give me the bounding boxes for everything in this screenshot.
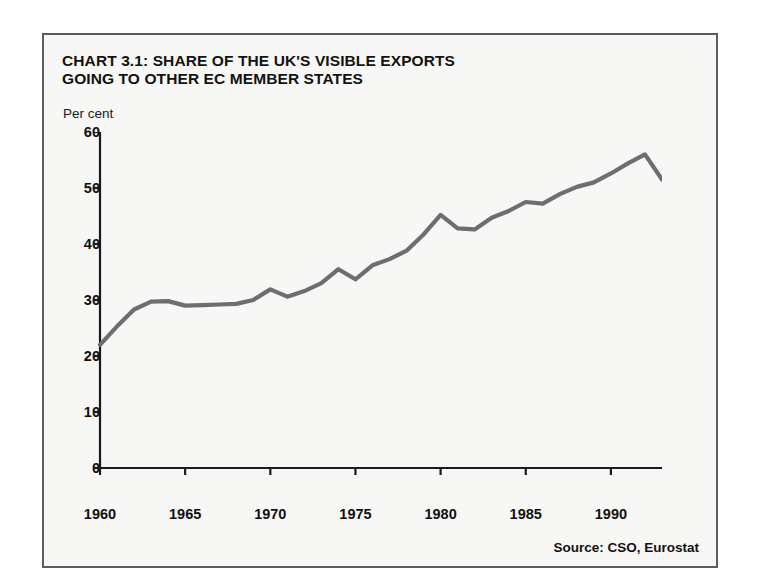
x-axis-tick-labels: 1960196519701975198019851990 [100,506,662,530]
chart-title-line-1: CHART 3.1: SHARE OF THE UK'S VISIBLE EXP… [62,52,622,70]
x-axis-tick-label: 1965 [169,506,201,522]
x-axis-tick-label: 1975 [339,506,371,522]
y-axis-unit-label: Per cent [63,106,113,121]
x-axis-tick-label: 1985 [510,506,542,522]
x-axis-tick-label: 1980 [424,506,456,522]
source-note: Source: CSO, Eurostat [553,540,699,555]
axis-lines [100,132,662,468]
chart-svg [62,132,662,504]
chart-title-line-2: GOING TO OTHER EC MEMBER STATES [62,70,622,88]
data-series-line [100,154,662,344]
x-axis-tick-label: 1960 [84,506,116,522]
x-axis-tick-label: 1990 [595,506,627,522]
plot-area [62,132,662,504]
chart-page: CHART 3.1: SHARE OF THE UK'S VISIBLE EXP… [0,0,761,588]
page-title: CHART 3.1: SHARE OF THE UK'S VISIBLE EXP… [62,52,622,88]
x-axis-tick-label: 1970 [254,506,286,522]
